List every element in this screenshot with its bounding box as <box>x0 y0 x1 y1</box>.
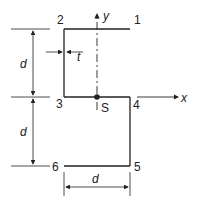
centroid-dot <box>94 94 100 100</box>
point-label-5: 5 <box>134 160 141 174</box>
z-section-diagram: 2 1 3 4 5 6 S y x d d d t <box>0 0 200 203</box>
point-label-2: 2 <box>57 13 64 27</box>
centroid-label: S <box>101 101 109 115</box>
bottom-width-label: d <box>92 172 99 186</box>
point-label-6: 6 <box>52 160 59 174</box>
point-label-4: 4 <box>133 98 140 112</box>
y-axis-label: y <box>102 9 110 23</box>
x-axis-label: x <box>180 91 188 105</box>
lower-height-label: d <box>20 125 27 139</box>
point-label-1: 1 <box>134 13 141 27</box>
dimension-left <box>11 29 50 166</box>
point-label-3: 3 <box>56 97 63 111</box>
upper-height-label: d <box>20 57 27 71</box>
